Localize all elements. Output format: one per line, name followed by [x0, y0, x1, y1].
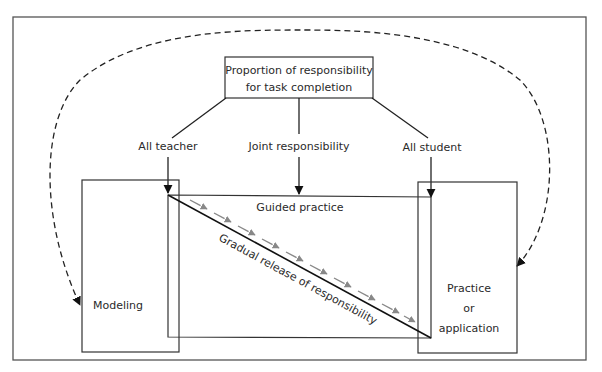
- practice-label-line-2: or: [463, 302, 475, 315]
- title-box: Proportion of responsibility for task co…: [225, 57, 373, 98]
- modeling-label: Modeling: [93, 299, 143, 312]
- label-all-student: All student: [402, 141, 462, 154]
- modeling-box: Modeling: [82, 180, 179, 352]
- diagonal-line: [168, 195, 431, 338]
- guided-practice-label: Guided practice: [256, 201, 343, 214]
- label-joint-responsibility: Joint responsibility: [247, 140, 350, 153]
- branch-line-left: [172, 98, 226, 138]
- gradual-release-label: Gradual release of responsibility: [217, 231, 380, 328]
- practice-application-box: Practice or application: [418, 182, 517, 353]
- branch-line-right: [372, 98, 428, 138]
- label-all-teacher: All teacher: [138, 140, 198, 153]
- gradual-release-diagram: Proportion of responsibility for task co…: [0, 0, 602, 372]
- practice-label-line-3: application: [439, 322, 500, 335]
- practice-label-line-1: Practice: [447, 282, 491, 295]
- title-line-1: Proportion of responsibility: [225, 64, 373, 77]
- release-arrows: [190, 200, 415, 322]
- title-line-2: for task completion: [246, 81, 353, 94]
